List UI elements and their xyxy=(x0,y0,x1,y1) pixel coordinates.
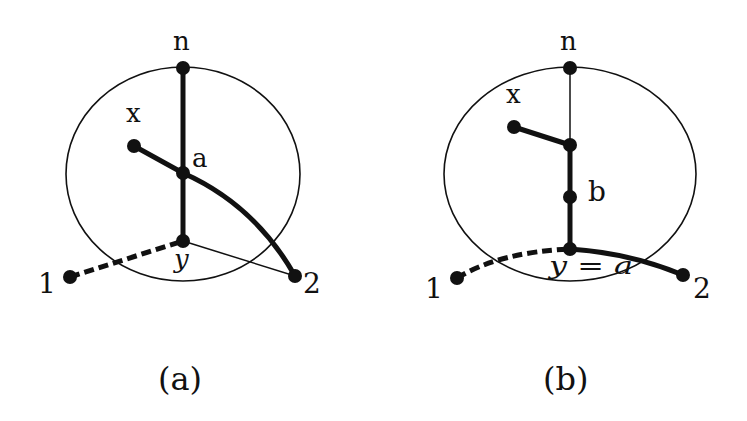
label-n-a: n xyxy=(173,26,190,56)
panel-a: n x a y 1 2 (a) xyxy=(38,26,321,398)
node-n-b xyxy=(563,61,577,75)
node-b xyxy=(563,190,577,204)
label-x-b: x xyxy=(506,79,521,109)
label-a-a: a xyxy=(192,143,208,173)
caption-b: (b) xyxy=(543,360,588,398)
node-1-b xyxy=(450,271,464,285)
node-n-a xyxy=(176,61,190,75)
label-2-b: 2 xyxy=(693,272,711,305)
label-1-b: 1 xyxy=(425,272,443,305)
label-y-a: y xyxy=(173,244,189,274)
label-1-a: 1 xyxy=(38,267,56,300)
caption-a: (a) xyxy=(158,360,202,398)
panel-b: n x b y = a 1 2 (b) xyxy=(425,26,711,398)
node-x-b xyxy=(507,120,521,134)
figure-canvas: n x a y 1 2 (a) n x b y = a 1 2 (b) xyxy=(0,0,747,421)
node-2-b xyxy=(676,268,690,282)
label-n-b: n xyxy=(560,26,577,56)
label-x-a: x xyxy=(126,98,141,128)
label-b-b: b xyxy=(588,175,606,208)
edge-x-junction xyxy=(514,127,570,145)
node-junction-b xyxy=(563,138,577,152)
label-2-a: 2 xyxy=(303,267,321,300)
edge-1-y-dashed xyxy=(70,241,183,277)
node-2-a xyxy=(288,269,302,283)
edge-a-2-curve xyxy=(183,173,295,276)
node-1-a xyxy=(63,270,77,284)
edge-x-a xyxy=(134,146,183,173)
node-a xyxy=(176,166,190,180)
label-y-equals-a: y = a xyxy=(548,252,633,280)
node-x-a xyxy=(127,139,141,153)
